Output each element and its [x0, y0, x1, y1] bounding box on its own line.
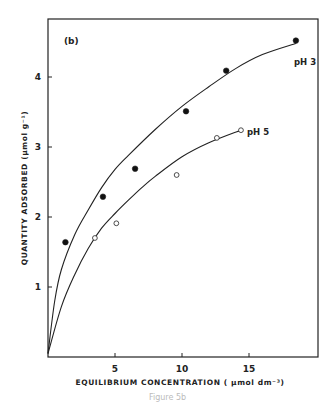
open-data-point [239, 128, 244, 133]
plot-frame [48, 19, 318, 357]
y-tick-label: 4 [35, 72, 41, 82]
filled-data-point [293, 38, 299, 44]
y-tick-label: 1 [35, 282, 41, 292]
filled-data-point [100, 194, 106, 200]
x-axis-title: EQUILIBRIUM CONCENTRATION ( µmol dm⁻³) [75, 378, 284, 387]
figure-caption: Figure 5b [0, 393, 335, 402]
x-axis-ticks: 51015 [112, 353, 255, 374]
filled-data-point [183, 109, 189, 115]
series-label-ph5: pH 5 [247, 127, 269, 137]
fit-curve-ph-5 [48, 130, 241, 353]
filled-data-point [132, 166, 138, 172]
x-tick-label: 5 [112, 364, 118, 374]
filled-data-point [63, 239, 69, 245]
x-tick-label: 15 [243, 364, 256, 374]
adsorption-chart: 1234 51015 (b) pH 3 pH 5 EQUILIBRIUM CON… [0, 0, 335, 411]
y-tick-label: 2 [35, 212, 41, 222]
y-axis-ticks: 1234 [35, 72, 52, 292]
series-label-ph3: pH 3 [294, 57, 316, 67]
open-data-point [214, 136, 219, 141]
open-data-point [93, 236, 98, 241]
y-tick-label: 3 [35, 142, 41, 152]
filled-data-point [223, 68, 229, 74]
fit-curves [48, 43, 296, 353]
y-axis-title: QUANTITY ADSORBED (µmol g⁻¹) [20, 111, 29, 266]
fit-curve-ph-3 [48, 43, 296, 353]
panel-label: (b) [64, 36, 79, 46]
open-data-point [174, 173, 179, 178]
data-points [63, 38, 299, 245]
x-tick-label: 10 [176, 364, 189, 374]
open-data-point [114, 221, 119, 226]
